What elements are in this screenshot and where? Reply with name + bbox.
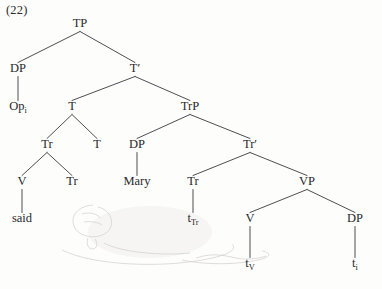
- tree-node-tp: TP: [73, 16, 88, 30]
- tree-branch-trbar-to-tr3: [193, 153, 250, 176]
- tree-node-dp1: DP: [10, 61, 26, 75]
- tree-branch-trp-to-dp2: [137, 115, 190, 139]
- tree-node-tbar: T′: [130, 61, 141, 75]
- tree-node-trp: TrP: [181, 99, 199, 113]
- tree-node-trbar: Tr′: [243, 137, 257, 151]
- tree-branch-tbar-to-trp: [135, 77, 190, 101]
- tree-node-tv: tV: [245, 256, 255, 272]
- page-smudge-artifact: [62, 205, 269, 264]
- tree-branch-tp-to-dp1: [18, 32, 80, 63]
- tree-branch-t1-to-tr1: [47, 115, 72, 139]
- tree-branch-vp-to-dp3: [307, 190, 355, 213]
- tree-node-tr2: Tr: [66, 174, 78, 188]
- tree-node-v1: V: [17, 174, 26, 188]
- tree-node-tr3: Tr: [187, 174, 199, 188]
- tree-node-mary: Mary: [123, 174, 151, 188]
- tree-node-t2: T: [93, 137, 101, 151]
- tree-node-vp: VP: [299, 174, 315, 188]
- tree-branch-tr1-to-v1: [22, 153, 47, 176]
- syntax-tree-diagram: TPDPOpiT′TTrPTrTDPTr′VTrMaryTrVPsaidtTrV…: [0, 0, 382, 289]
- tree-node-tr1: Tr: [41, 137, 53, 151]
- tree-node-t1: T: [68, 99, 76, 113]
- tree-branch-t1-to-t2: [72, 115, 97, 139]
- tree-branch-tp-to-tbar: [80, 32, 135, 63]
- tree-node-dp2: DP: [129, 137, 145, 151]
- tree-node-v2: V: [245, 211, 254, 225]
- tree-branch-vp-to-v2: [250, 190, 307, 213]
- tree-node-op: Opi: [9, 99, 27, 115]
- tree-node-ti: ti: [352, 256, 358, 272]
- tree-node-dp3: DP: [347, 211, 363, 225]
- tree-node-said: said: [12, 211, 33, 225]
- tree-branch-tr1-to-tr2: [47, 153, 72, 176]
- tree-branch-trbar-to-vp: [250, 153, 307, 176]
- tree-branch-tbar-to-t1: [72, 77, 135, 101]
- tree-branch-trp-to-trbar: [190, 115, 250, 139]
- figure-page: (22) TPDPOpiT′TTrPTrTDPTr′VTrMaryTrVPsai…: [0, 0, 382, 289]
